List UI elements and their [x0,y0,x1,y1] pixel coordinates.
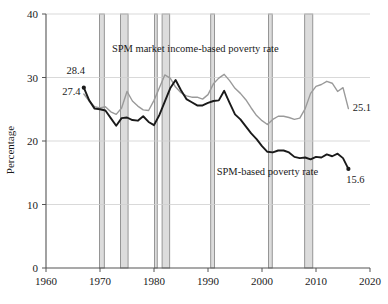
x-tick-label-2020: 2020 [359,275,382,287]
endpoint-marker [346,167,350,171]
poverty-rate-chart: 0102030401960197019801990200020102020 SP… [0,0,388,304]
y-axis-title-group: Percentage [4,126,16,174]
end-market-income-label: 25.1 [353,102,371,113]
x-tick-label-1970: 1970 [89,275,112,287]
end-spm-label: 15.6 [346,174,364,185]
x-tick-label-2000: 2000 [251,275,274,287]
start-spm-label: 28.4 [67,65,86,76]
chart-canvas: 0102030401960197019801990200020102020 SP… [0,0,388,304]
y-tick-label-20: 20 [27,135,39,147]
x-tick-label-1980: 1980 [143,275,166,287]
y-tick-label-30: 30 [27,72,39,84]
market-income-series-label: SPM market income-based poverty rate [112,43,279,54]
start-market-income-label: 27.4 [62,86,81,97]
spm-series-label: SPM-based poverty rate [217,166,319,177]
endpoint-marker [82,86,86,90]
x-tick-label-1960: 1960 [35,275,58,287]
y-tick-label-0: 0 [33,262,39,274]
x-tick-label-1990: 1990 [197,275,220,287]
x-tick-label-2010: 2010 [305,275,328,287]
y-axis-title: Percentage [4,126,16,174]
y-tick-label-40: 40 [27,8,39,20]
y-tick-label-10: 10 [27,199,39,211]
